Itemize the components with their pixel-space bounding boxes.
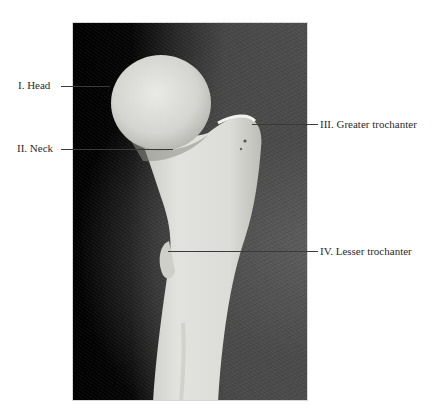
label-lesser-trochanter: IV. Lesser trochanter: [320, 245, 412, 258]
label-head: I. Head: [18, 79, 50, 92]
femoral-head: [111, 55, 211, 151]
femur-photograph: [72, 22, 308, 401]
leader-line-lesser-trochanter: [168, 251, 318, 252]
femur-figure: I. Head II. Neck III. Greater trochanter…: [0, 0, 440, 415]
label-greater-trochanter: III. Greater trochanter: [320, 118, 417, 131]
femur-bone-illustration: [73, 23, 308, 401]
leader-line-greater-trochanter: [252, 124, 318, 125]
label-neck: II. Neck: [17, 142, 53, 155]
leader-line-neck: [61, 149, 173, 150]
leader-line-head: [61, 86, 110, 87]
